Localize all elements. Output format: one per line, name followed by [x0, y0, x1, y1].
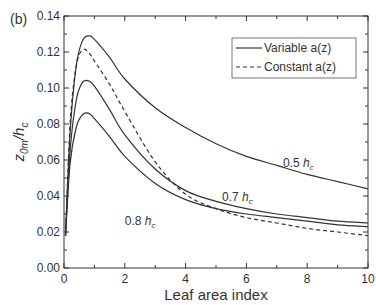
x-tick-label: 6	[243, 272, 250, 286]
series-line	[66, 113, 368, 236]
curve-label: 0.5 hc	[283, 156, 314, 172]
curve-label: 0.7 hc	[222, 190, 253, 206]
y-tick-label: 0.10	[37, 81, 61, 95]
x-tick-label: 8	[304, 272, 311, 286]
series-line	[66, 80, 368, 235]
y-tick-label: 0.12	[37, 45, 61, 59]
panel-label: (b)	[10, 11, 27, 27]
legend: Variable a(z) Constant a(z)	[232, 38, 356, 78]
y-tick-label: 0.14	[37, 9, 61, 23]
legend-label-constant: Constant a(z)	[264, 60, 336, 74]
line-chart: (b) 0246810 0.000.020.040.060.080.100.12…	[0, 0, 376, 305]
x-tick-label: 0	[61, 272, 68, 286]
legend-label-variable: Variable a(z)	[264, 41, 331, 55]
x-tick-label: 2	[121, 272, 128, 286]
svg-text:z0m/hc: z0m/hc	[10, 123, 30, 163]
y-tick-label: 0.02	[37, 225, 61, 239]
y-axis-title: z0m/hc	[10, 123, 30, 163]
curve-label: 0.8 hc	[125, 214, 156, 230]
x-tick-label: 4	[182, 272, 189, 286]
y-tick-label: 0.00	[37, 261, 61, 275]
x-tick-label: 10	[361, 272, 375, 286]
x-axis-title: Leaf area index	[164, 286, 268, 303]
y-tick-label: 0.08	[37, 117, 61, 131]
y-tick-label: 0.06	[37, 153, 61, 167]
y-tick-label: 0.04	[37, 189, 61, 203]
